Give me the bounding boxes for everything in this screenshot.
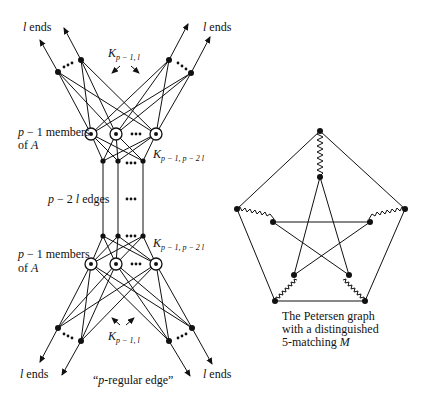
label-top-left-ends: l ends	[23, 21, 51, 34]
label-top-k: Kp − 1, l	[108, 47, 140, 64]
label-lower-of-a: of A	[18, 262, 38, 275]
caption-petersen-line3: 5-matching M	[282, 336, 350, 349]
label-bottom-k: Kp − 1, l	[108, 330, 140, 347]
label-edges: p − 2 l edges	[48, 193, 109, 206]
label-bottom-right-ends: l ends	[203, 368, 231, 381]
label-lower-k: Kp − 1, p − 2 l	[153, 237, 204, 254]
label-bottom-left-ends: l ends	[20, 368, 48, 381]
matching-m-edges	[237, 131, 405, 301]
label-upper-k: Kp − 1, p − 2 l	[153, 148, 204, 165]
label-lower-members: p − 1 members	[18, 248, 90, 261]
label-top-right-ends: l ends	[203, 21, 231, 34]
caption-p-regular-edge: “p-regular edge”	[93, 374, 173, 387]
label-upper-of-a: of A	[18, 139, 38, 152]
